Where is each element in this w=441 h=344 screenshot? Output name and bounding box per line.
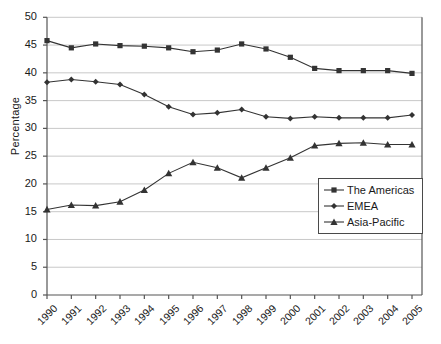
data-point-marker (288, 55, 293, 60)
plot-area (0, 0, 441, 344)
data-point-marker (93, 79, 99, 85)
data-point-marker (189, 159, 196, 166)
data-point-marker (312, 66, 317, 71)
data-point-marker (361, 68, 366, 73)
line-chart: Percentage 05101520253035404550 19901991… (0, 0, 441, 344)
legend-marker-triangle-icon (323, 215, 345, 229)
data-point-marker (409, 71, 414, 76)
legend-marker-square-icon (323, 183, 345, 197)
data-point-marker (238, 174, 245, 181)
data-point-marker (385, 68, 390, 73)
data-point-marker (44, 79, 50, 85)
data-point-marker (117, 82, 123, 88)
legend-item-label: EMEA (345, 200, 378, 212)
data-point-marker (116, 198, 123, 205)
series-the-americas (44, 38, 414, 76)
legend-marker-diamond-icon (323, 199, 345, 213)
data-point-marker (214, 110, 220, 116)
data-point-marker (44, 38, 49, 43)
data-point-marker (331, 187, 336, 192)
data-point-marker (166, 104, 172, 110)
data-point-marker (287, 115, 293, 121)
data-point-marker (142, 44, 147, 49)
legend-item-label: The Americas (345, 184, 414, 196)
data-point-marker (262, 164, 269, 171)
data-point-marker (336, 115, 342, 121)
data-point-marker (287, 154, 294, 161)
data-point-marker (312, 114, 318, 120)
data-point-marker (141, 186, 148, 193)
data-point-marker (385, 115, 391, 121)
chart-legend: The AmericasEMEAAsia-Pacific (318, 178, 423, 234)
data-point-marker (215, 47, 220, 52)
data-point-marker (336, 68, 341, 73)
data-point-marker (141, 92, 147, 98)
legend-item[interactable]: Asia-Pacific (323, 214, 416, 230)
data-point-marker (69, 45, 74, 50)
series-emea (44, 77, 415, 122)
data-point-marker (360, 115, 366, 121)
data-point-marker (239, 41, 244, 46)
data-point-marker (190, 49, 195, 54)
data-point-marker (239, 106, 245, 112)
data-point-marker (165, 170, 172, 177)
legend-item[interactable]: EMEA (323, 198, 416, 214)
legend-item-label: Asia-Pacific (345, 216, 404, 228)
series-line (47, 80, 412, 119)
data-point-marker (263, 114, 269, 120)
data-point-marker (166, 45, 171, 50)
data-point-marker (190, 111, 196, 117)
data-point-marker (409, 112, 415, 118)
data-point-marker (93, 41, 98, 46)
data-point-marker (117, 43, 122, 48)
legend-item[interactable]: The Americas (323, 182, 416, 198)
data-point-marker (68, 77, 74, 83)
data-point-marker (331, 203, 337, 209)
data-point-marker (263, 46, 268, 51)
